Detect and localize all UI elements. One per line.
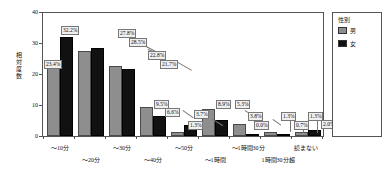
bar-female-3[interactable] (122, 69, 135, 136)
legend-title: 性別 (338, 15, 350, 24)
legend-item-male[interactable]: 男 (338, 26, 356, 35)
data-label-male-2: 27.8% (118, 29, 136, 38)
y-axis-tick-40: 40 (22, 9, 38, 15)
bar-female-4[interactable] (153, 116, 166, 136)
bar-male-1[interactable] (47, 64, 60, 136)
data-label-female-7: 0.0% (254, 121, 269, 130)
x-tickmark-0 (43, 136, 44, 139)
x-tickmark-8 (291, 136, 292, 139)
y-axis-tick-30: 30 (22, 40, 38, 46)
x-tickmark-2 (105, 136, 106, 139)
data-label-male-3: 22.8% (148, 51, 166, 60)
y-tickmark-40 (39, 12, 42, 13)
bar-female-1[interactable] (60, 37, 73, 136)
data-label-male-8: 1.3% (281, 112, 296, 121)
x-axis-label-8: 1時間30分超 (248, 155, 308, 164)
y-tickmark-20 (39, 74, 42, 75)
x-axis-label-4: ～40分 (131, 155, 175, 164)
data-label-female-8: 0.7% (294, 121, 309, 130)
x-tickmark-5 (198, 136, 199, 139)
data-label-female-5: 3.7% (194, 110, 209, 119)
legend-label-female: 女 (350, 39, 356, 48)
data-label-female-6: 5.3% (235, 100, 250, 109)
x-tickmark-6 (229, 136, 230, 139)
data-label-female-4: 6.6% (165, 108, 180, 117)
x-axis-label-5: ～50分 (162, 143, 206, 152)
bar-male-3[interactable] (109, 66, 122, 136)
x-tickmark-9 (322, 136, 323, 139)
y-axis-tick-20: 20 (22, 71, 38, 77)
bar-male-4[interactable] (140, 107, 153, 136)
chart-container: 相対度数 40 30 20 10 0 (0, 0, 386, 182)
x-tickmark-3 (136, 136, 137, 139)
x-axis-label-3: ～30分 (100, 143, 144, 152)
data-label-male-5: 1.3% (188, 121, 203, 130)
data-label-male-7: 3.8% (248, 112, 263, 121)
legend-label-male: 男 (350, 26, 356, 35)
x-axis-label-7: ～1時間30分 (219, 143, 277, 152)
data-label-female-1: 32.2% (61, 26, 79, 35)
data-label-male-1: 23.4% (44, 60, 62, 69)
legend-swatch-male (338, 27, 347, 34)
bar-male-7[interactable] (233, 124, 246, 136)
bar-female-2[interactable] (91, 48, 104, 136)
data-label-male-6: 8.9% (216, 100, 231, 109)
x-axis-label-6: ～1時間 (193, 155, 237, 164)
bar-male-2[interactable] (78, 51, 91, 136)
x-axis-baseline (43, 136, 323, 137)
x-tickmark-4 (167, 136, 168, 139)
x-tickmark-1 (74, 136, 75, 139)
legend-item-female[interactable]: 女 (338, 39, 356, 48)
x-tickmark-7 (260, 136, 261, 139)
x-axis-label-2: ～20分 (69, 155, 113, 164)
leader-line-g8m (290, 120, 291, 132)
leader-line-g9m (317, 120, 318, 133)
y-tickmark-10 (39, 105, 42, 106)
legend-swatch-female (338, 40, 347, 47)
y-axis-tick-10: 10 (22, 102, 38, 108)
y-tickmark-0 (39, 136, 42, 137)
y-axis-tick-0: 0 (22, 133, 38, 139)
x-axis-label-9: 読まない (284, 143, 328, 152)
y-tickmark-30 (39, 43, 42, 44)
data-label-female-2: 28.5% (129, 38, 147, 47)
x-axis-label-1: ～10分 (38, 143, 82, 152)
data-label-female-3: 21.7% (160, 60, 178, 69)
